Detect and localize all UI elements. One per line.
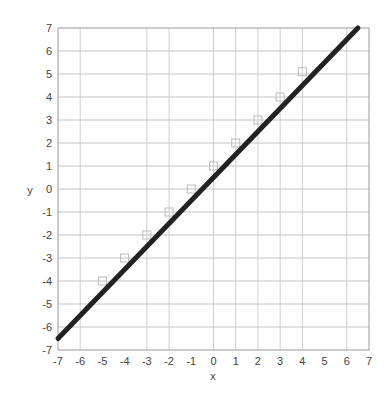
- y-tick-label: 6: [46, 45, 52, 57]
- x-tick-label: 2: [255, 355, 261, 367]
- x-tick-label: -7: [53, 355, 63, 367]
- x-tick-label: -1: [186, 355, 196, 367]
- grid-lines: [58, 28, 369, 350]
- y-tick-label: -1: [42, 206, 52, 218]
- x-axis-tick-labels: -7-6-5-4-3-2-101234567: [53, 355, 372, 367]
- y-tick-label: -3: [42, 252, 52, 264]
- regression-line: [58, 28, 358, 339]
- y-tick-label: 5: [46, 68, 52, 80]
- y-tick-label: 3: [46, 114, 52, 126]
- x-axis-label: x: [210, 370, 216, 382]
- fit-line: [58, 28, 358, 339]
- x-tick-label: 1: [233, 355, 239, 367]
- scatter-plot-with-fit-line: -7-6-5-4-3-2-101234567 76543210-1-2-3-4-…: [0, 0, 390, 400]
- y-tick-label: 7: [46, 22, 52, 34]
- x-tick-label: -3: [142, 355, 152, 367]
- x-tick-label: 6: [344, 355, 350, 367]
- x-tick-label: 3: [277, 355, 283, 367]
- x-tick-label: -2: [164, 355, 174, 367]
- data-point-markers: [98, 68, 306, 285]
- x-tick-label: 7: [366, 355, 372, 367]
- x-tick-label: 5: [322, 355, 328, 367]
- y-tick-label: -4: [42, 275, 52, 287]
- x-tick-label: -4: [120, 355, 130, 367]
- y-tick-label: 0: [46, 183, 52, 195]
- x-tick-label: 4: [299, 355, 305, 367]
- y-axis-label: y: [27, 184, 33, 196]
- y-tick-label: 2: [46, 137, 52, 149]
- y-tick-label: -2: [42, 229, 52, 241]
- x-tick-label: -5: [98, 355, 108, 367]
- y-tick-label: -6: [42, 321, 52, 333]
- x-tick-label: 0: [210, 355, 216, 367]
- y-tick-label: -7: [42, 344, 52, 356]
- y-tick-label: -5: [42, 298, 52, 310]
- y-axis-tick-labels: 76543210-1-2-3-4-5-6-7: [42, 22, 52, 356]
- y-tick-label: 1: [46, 160, 52, 172]
- y-tick-label: 4: [46, 91, 52, 103]
- x-tick-label: -6: [75, 355, 85, 367]
